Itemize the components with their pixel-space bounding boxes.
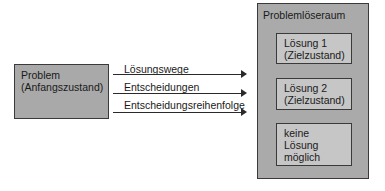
- arrow-decision-order: [113, 108, 247, 118]
- outcome-sublabel: (Zielzustand): [284, 94, 351, 106]
- start-state-label: (Anfangszustand): [21, 81, 108, 93]
- arrow-line: [113, 112, 243, 113]
- arrowhead-icon: [241, 108, 247, 116]
- arrow-decisions: [113, 89, 247, 99]
- problem-label: Problem: [21, 69, 108, 81]
- arrowhead-icon: [241, 89, 247, 97]
- arrow-line: [113, 93, 243, 94]
- outcome-line-2: Lösung: [284, 139, 351, 151]
- arrow-line: [113, 74, 243, 75]
- arrow-solution-paths: [113, 70, 247, 80]
- arrowhead-icon: [241, 70, 247, 78]
- outcome-solution-1: Lösung 1 (Zielzustand): [276, 33, 352, 64]
- outcome-no-solution: keine Lösung möglich: [276, 123, 352, 166]
- outcome-line-3: möglich: [284, 151, 351, 163]
- outcome-solution-2: Lösung 2 (Zielzustand): [276, 78, 352, 110]
- outcome-sublabel: (Zielzustand): [284, 49, 351, 61]
- problem-space-title: Problemlöseraum: [263, 9, 345, 21]
- outcome-line-1: keine: [284, 127, 351, 139]
- problem-start-state-box: Problem (Anfangszustand): [14, 64, 109, 119]
- problem-space-box: Problemlöseraum Lösung 1 (Zielzustand) L…: [257, 3, 369, 179]
- outcome-label: Lösung 2: [284, 82, 351, 94]
- outcome-label: Lösung 1: [284, 37, 351, 49]
